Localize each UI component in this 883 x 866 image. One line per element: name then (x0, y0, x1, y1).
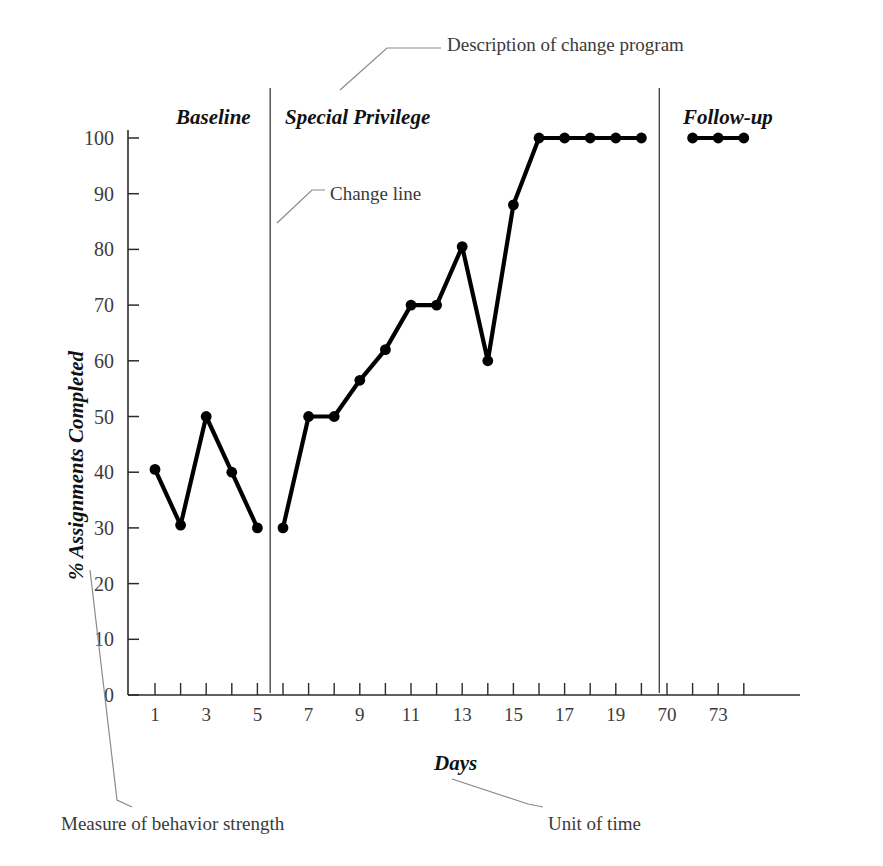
phase-label-baseline: Baseline (176, 105, 251, 130)
y-tick-label: 80 (94, 238, 114, 260)
phase-change-lines (270, 88, 659, 693)
x-tick-label: 73 (709, 704, 728, 725)
x-tick-label: 11 (402, 704, 420, 725)
x-tick-label: 70 (658, 704, 677, 725)
data-point (226, 467, 237, 478)
data-point (354, 375, 365, 386)
axes (128, 130, 800, 695)
phase-label-follow-up: Follow-up (683, 105, 773, 130)
data-point (406, 300, 417, 311)
x-axis-ticks: 1357911131517197073 (150, 683, 744, 725)
y-tick-label: 20 (94, 573, 114, 595)
data-point (252, 523, 263, 534)
x-tick-label: 7 (304, 704, 314, 725)
data-point (559, 133, 570, 144)
data-point (482, 355, 493, 366)
leader-description-of-change-program (340, 48, 441, 90)
data-point (150, 464, 161, 475)
y-tick-label: 40 (94, 461, 114, 483)
data-point (738, 133, 749, 144)
y-axis-title: % Assignments Completed (64, 351, 89, 580)
annotation-measure-of-behavior-strength: Measure of behavior strength (61, 813, 284, 835)
phase-label-special-privilege: Special Privilege (285, 105, 430, 130)
annotation-description-of-change-program: Description of change program (447, 34, 684, 56)
data-point (431, 300, 442, 311)
data-point (687, 133, 698, 144)
x-tick-label: 1 (150, 704, 160, 725)
leader-unit-of-time (452, 779, 543, 807)
data-point (278, 523, 289, 534)
leader-lines (90, 48, 543, 807)
annotation-change-line: Change line (330, 183, 421, 205)
data-point (713, 133, 724, 144)
x-tick-label: 5 (253, 704, 263, 725)
data-lines (155, 138, 744, 528)
x-tick-label: 17 (555, 704, 574, 725)
data-point (329, 411, 340, 422)
data-point (636, 133, 647, 144)
y-tick-label: 60 (94, 350, 114, 372)
x-tick-label: 15 (504, 704, 523, 725)
y-tick-label: 30 (94, 517, 114, 539)
chart-page: 0102030405060708090100 13579111315171970… (0, 0, 883, 866)
x-tick-label: 19 (606, 704, 625, 725)
data-point (175, 520, 186, 531)
y-tick-label: 90 (94, 183, 114, 205)
data-line-baseline (155, 417, 257, 528)
data-point (534, 133, 545, 144)
data-point (585, 133, 596, 144)
data-point (303, 411, 314, 422)
y-axis-ticks: 0102030405060708090100 (84, 127, 139, 706)
data-point (610, 133, 621, 144)
x-tick-label: 3 (201, 704, 211, 725)
y-tick-label: 70 (94, 294, 114, 316)
x-tick-label: 13 (453, 704, 472, 725)
x-axis-title: Days (434, 751, 477, 776)
y-tick-label: 100 (84, 127, 114, 149)
data-point (380, 344, 391, 355)
data-point (457, 241, 468, 252)
leader-change-line (277, 190, 325, 223)
data-point (508, 199, 519, 210)
annotation-unit-of-time: Unit of time (548, 813, 641, 835)
data-point (201, 411, 212, 422)
x-tick-label: 9 (355, 704, 365, 725)
y-tick-label: 50 (94, 406, 114, 428)
